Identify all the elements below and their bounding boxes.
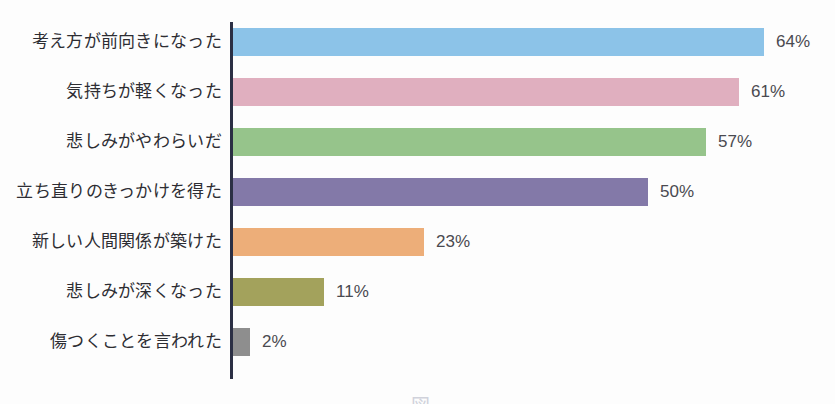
category-label: 傷つくことを言われた [0,327,222,357]
category-label: 気持ちが軽くなった [0,77,222,107]
bar-row: 悲しみがやわらいだ57% [0,127,835,157]
bar-chart: 考え方が前向きになった64%気持ちが軽くなった61%悲しみがやわらいだ57%立ち… [0,0,835,404]
category-label: 悲しみがやわらいだ [0,127,222,157]
bar-row: 気持ちが軽くなった61% [0,77,835,107]
bar-row: 悲しみが深くなった11% [0,277,835,307]
bar-value-label: 61% [751,77,785,107]
category-label: 考え方が前向きになった [0,27,222,57]
bar-row: 立ち直りのきっかけを得た50% [0,177,835,207]
bar [233,128,706,156]
bar-value-label: 11% [336,277,369,307]
bar-row: 傷つくことを言われた2% [0,327,835,357]
bar-value-label: 57% [718,127,752,157]
category-label: 新しい人間関係が築けた [0,227,222,257]
cut-off-caption: 図 [130,396,710,404]
bar [233,78,739,106]
bar [233,28,764,56]
bar-row: 考え方が前向きになった64% [0,27,835,57]
bar [233,228,424,256]
category-label: 悲しみが深くなった [0,277,222,307]
bar-value-label: 2% [262,327,287,357]
bar-value-label: 50% [660,177,694,207]
bar-row: 新しい人間関係が築けた23% [0,227,835,257]
bar-value-label: 64% [776,27,810,57]
category-label: 立ち直りのきっかけを得た [0,177,222,207]
bar-value-label: 23% [436,227,470,257]
bar [233,178,648,206]
bar [233,278,324,306]
bar [233,328,250,356]
